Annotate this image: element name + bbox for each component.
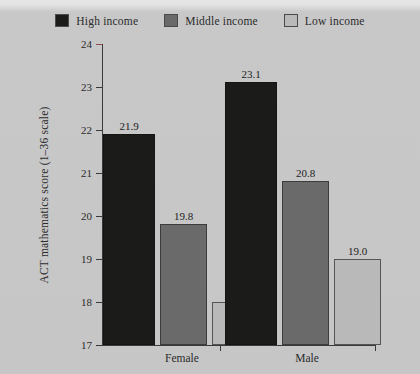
bar-value-male-high-income: 23.1 xyxy=(241,68,260,80)
y-tick-17 xyxy=(96,345,102,346)
bar-male-high-income[interactable]: 23.1 xyxy=(225,82,277,345)
y-tick-label-22: 22 xyxy=(81,124,92,136)
legend-swatch-low-income xyxy=(284,14,298,27)
y-axis-title: ACT mathematics score (1–36 scale) xyxy=(36,44,52,345)
x-tick-separator-1 xyxy=(220,345,221,351)
x-axis-label-male: Male xyxy=(295,352,319,364)
legend-label-middle-income: Middle income xyxy=(185,15,258,27)
legend-item-middle-income[interactable]: Middle income xyxy=(164,14,258,27)
y-tick-label-21: 21 xyxy=(81,167,92,179)
bar-value-male-low-income: 19.0 xyxy=(348,245,367,257)
legend-item-high-income[interactable]: High income xyxy=(55,14,138,27)
chart-legend: High income Middle income Low income xyxy=(0,14,420,27)
bar-value-female-high-income: 21.9 xyxy=(119,120,138,132)
plot-area: 21.9 19.8 18.0 23.1 20.8 19.0 xyxy=(102,44,375,345)
bar-value-male-middle-income: 20.8 xyxy=(296,167,315,179)
y-tick-label-23: 23 xyxy=(81,81,92,93)
bar-male-low-income[interactable]: 19.0 xyxy=(334,259,381,345)
y-axis-title-text: ACT mathematics score (1–36 scale) xyxy=(38,106,50,283)
bar-female-middle-income[interactable]: 19.8 xyxy=(160,224,207,345)
legend-item-low-income[interactable]: Low income xyxy=(284,14,365,27)
y-tick-label-20: 20 xyxy=(81,210,92,222)
x-tick-separator-2 xyxy=(375,345,376,351)
legend-label-high-income: High income xyxy=(76,15,138,27)
y-tick-label-17: 17 xyxy=(81,339,92,351)
bar-male-middle-income[interactable]: 20.8 xyxy=(282,181,329,345)
x-axis-label-female: Female xyxy=(165,352,199,364)
x-axis-line xyxy=(102,345,376,346)
chart-figure: High income Middle income Low income ACT… xyxy=(0,0,420,374)
legend-label-low-income: Low income xyxy=(305,15,365,27)
y-tick-label-24: 24 xyxy=(81,38,92,50)
y-tick-label-19: 19 xyxy=(81,253,92,265)
y-tick-label-18: 18 xyxy=(81,296,92,308)
bar-female-high-income[interactable]: 21.9 xyxy=(103,134,155,345)
bar-value-female-middle-income: 19.8 xyxy=(174,210,193,222)
legend-swatch-middle-income xyxy=(164,14,178,27)
legend-swatch-high-income xyxy=(55,14,69,27)
